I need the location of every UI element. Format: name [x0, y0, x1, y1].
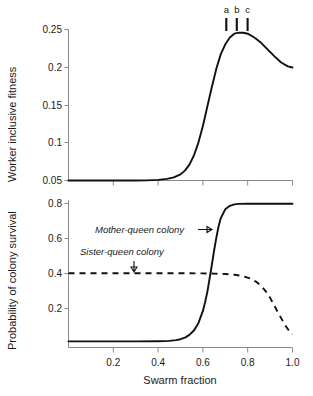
marker-label-c: c [245, 4, 250, 15]
x-axis-title: Swarm fraction [143, 374, 216, 386]
figure-container: Worker inclusive fitness 0.25 0.2 0.15 0… [0, 0, 313, 396]
bottom-ytick-label-02: 0.2 [48, 303, 62, 314]
top-ytick-label-025: 0.25 [43, 24, 63, 35]
marker-label-a: a [224, 4, 230, 15]
xtick-label-06: 0.6 [196, 357, 210, 368]
xtick-label-02: 0.2 [106, 357, 120, 368]
bottom-y-axis-title: Probability of colony survival [6, 211, 18, 350]
xtick-label-10: 1.0 [286, 357, 300, 368]
top-ytick-label-015: 0.15 [43, 100, 63, 111]
top-ytick-label-01: 0.1 [48, 137, 62, 148]
xtick-label-04: 0.4 [151, 357, 165, 368]
top-y-axis-title: Worker inclusive fitness [6, 66, 18, 182]
top-axes-lines [69, 30, 293, 181]
bottom-x-tickmarks [113, 348, 292, 353]
bottom-ytick-label-08: 0.8 [48, 198, 62, 209]
bottom-ytick-label-04: 0.4 [48, 268, 62, 279]
bottom-panel: Probability of colony survival 0.8 0.6 0… [6, 198, 300, 386]
figure-svg: Worker inclusive fitness 0.25 0.2 0.15 0… [0, 0, 313, 396]
annotation-mother-queen-colony: Mother-queen colony [95, 224, 185, 235]
curve-worker-inclusive-fitness [69, 33, 293, 181]
xtick-label-08: 0.8 [241, 357, 255, 368]
marker-label-b: b [234, 4, 239, 15]
top-panel: Worker inclusive fitness 0.25 0.2 0.15 0… [6, 4, 293, 186]
marker-bars [226, 18, 247, 31]
annotation-arrow-down-icon [131, 261, 137, 272]
annotation-sister-queen-colony: Sister-queen colony [80, 246, 165, 257]
curve-sister-queen-colony [69, 273, 293, 334]
top-ytick-label-005: 0.05 [43, 175, 63, 186]
bottom-ytick-label-06: 0.6 [48, 233, 62, 244]
bottom-y-tickmarks [65, 204, 69, 309]
annotation-arrow-right-icon [198, 227, 212, 233]
top-ytick-label-02: 0.2 [48, 62, 62, 73]
top-y-tickmarks [65, 30, 69, 181]
